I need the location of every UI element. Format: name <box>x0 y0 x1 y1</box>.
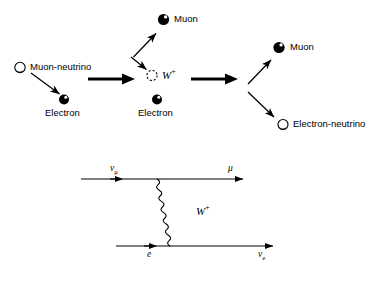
label-feynman-top-left-subscript: μ <box>114 168 118 175</box>
w-boson-icon <box>147 70 157 80</box>
arrow-to-muon-out <box>248 60 271 84</box>
bold-arrow-right <box>191 74 238 85</box>
label-feynman-bottom-left: e <box>147 250 151 260</box>
muon-neutrino-in-icon <box>15 62 25 72</box>
physics-figure: Muon-neutrino Electron W+ Electron Muon … <box>0 0 383 281</box>
label-feynman-propagator: W+ <box>196 204 210 217</box>
arrow-neutrino-to-electron <box>31 73 60 94</box>
label-electron-in: Electron <box>45 108 80 118</box>
figure-canvas <box>0 0 383 281</box>
arrow-into-w-boson <box>131 57 147 70</box>
electron-neutrino-out-icon <box>278 120 288 130</box>
muon-top-icon <box>158 14 169 25</box>
label-feynman-bottom-right-subscript: e <box>262 254 265 261</box>
muon-out-icon <box>273 42 284 53</box>
arrow-to-electron-neutrino <box>248 92 274 117</box>
label-feynman-bottom-right: νe <box>258 250 265 262</box>
feynman-w-propagator <box>157 179 171 246</box>
label-electron-mid: Electron <box>138 108 173 118</box>
label-muon-out: Muon <box>290 42 314 52</box>
label-w-boson: W+ <box>162 68 176 81</box>
electron-mid-icon <box>152 95 162 105</box>
arrow-to-muon-top <box>134 34 157 58</box>
label-w-boson-symbol: W <box>162 69 171 81</box>
label-electron-neutrino-out: Electron-neutrino <box>293 119 365 129</box>
label-feynman-top-right: μ <box>228 164 233 174</box>
label-feynman-top-left: νμ <box>110 164 118 176</box>
label-muon-top: Muon <box>174 14 198 24</box>
electron-in-icon <box>59 95 69 105</box>
label-feynman-propagator-symbol: W <box>196 205 205 217</box>
label-w-boson-superscript: + <box>171 67 175 76</box>
label-muon-neutrino-in: Muon-neutrino <box>30 62 91 72</box>
bold-arrow-left <box>88 74 135 85</box>
label-feynman-propagator-superscript: + <box>205 203 209 212</box>
